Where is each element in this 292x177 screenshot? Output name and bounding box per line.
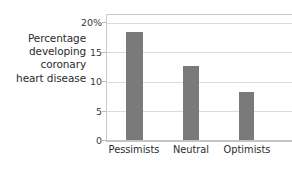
x-tick-label-neutral: Neutral (173, 144, 209, 155)
x-tick-label-optimists: Optimists (224, 144, 271, 155)
bar-neutral (183, 66, 199, 140)
y-tick-label-15: 15 (62, 46, 102, 57)
x-tick-label-pessimists: Pessimists (109, 144, 160, 155)
bar-optimists (239, 92, 254, 141)
bar-chart-figure: Percentage developing coronary heart dis… (0, 0, 292, 177)
bars-layer (106, 14, 292, 140)
y-axis-tick-labels: 20% 15 10 5 0 (62, 0, 102, 177)
y-tick-label-5: 5 (62, 105, 102, 116)
y-tick-label-10: 10 (62, 76, 102, 87)
x-axis-line (106, 140, 292, 142)
y-tick-label-0: 0 (62, 135, 102, 146)
bar-pessimists (126, 32, 143, 140)
y-tick-label-20: 20% (62, 17, 102, 28)
